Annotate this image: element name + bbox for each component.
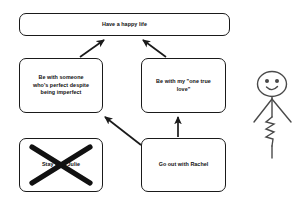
edge-love-to-happy bbox=[143, 40, 166, 57]
node-go-out-with-rachel[interactable]: Go out with Rachel bbox=[141, 138, 226, 192]
node-be-with-someone-perfect-despite-imperfect[interactable]: Be with someone who's perfect despite be… bbox=[19, 58, 103, 113]
node-label: Be with my "one true love" bbox=[152, 78, 215, 93]
stick-figure-smile bbox=[267, 87, 278, 90]
stick-figure-arm-right bbox=[272, 99, 291, 122]
edge-perfect-to-happy bbox=[80, 40, 104, 57]
edge-rachel-to-perfect bbox=[105, 117, 141, 145]
stick-figure-eye-left bbox=[266, 80, 269, 83]
node-stay-with-julie[interactable]: Stay with Julie bbox=[19, 138, 103, 192]
node-label: Be with someone who's perfect despite be… bbox=[29, 74, 93, 97]
node-label: Go out with Rachel bbox=[155, 161, 213, 169]
stick-figure-eye-right bbox=[276, 80, 279, 83]
stick-figure-head bbox=[258, 72, 287, 97]
stick-figure-zigzag-body bbox=[266, 117, 274, 146]
stick-figure-icon bbox=[248, 62, 303, 167]
node-label: Stay with Julie bbox=[38, 161, 84, 169]
node-be-with-my-one-true-love[interactable]: Be with my "one true love" bbox=[141, 58, 226, 113]
diagram-canvas: Have a happy life Be with someone who's … bbox=[0, 0, 303, 203]
node-label: Have a happy life bbox=[98, 21, 151, 29]
node-have-a-happy-life[interactable]: Have a happy life bbox=[19, 13, 230, 36]
